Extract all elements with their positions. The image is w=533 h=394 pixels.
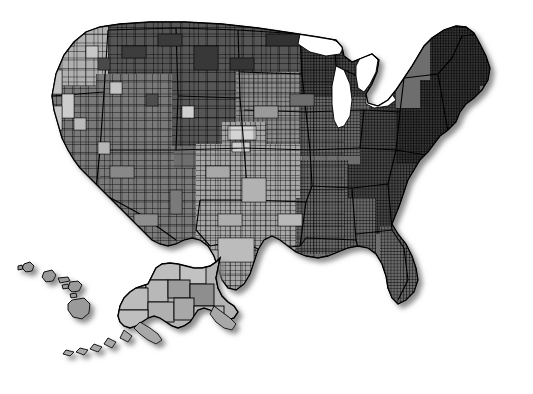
hawaii-islands xyxy=(18,262,90,319)
island-hawaii xyxy=(68,298,90,319)
island-molokai xyxy=(58,277,70,283)
region-mid-atlantic xyxy=(420,80,480,132)
island-kauai xyxy=(22,262,34,272)
cluster-lightest-plains-2 xyxy=(232,142,250,152)
island-oahu xyxy=(42,270,56,282)
lower-48-group[interactable] xyxy=(40,18,492,304)
hawaii-inset[interactable] xyxy=(18,262,90,319)
island-maui xyxy=(68,281,82,292)
region-great-basin xyxy=(96,74,174,170)
region-southwest xyxy=(100,168,200,248)
region-florida xyxy=(380,226,426,304)
us-county-map-svg[interactable] xyxy=(0,0,533,394)
island-niihau xyxy=(18,265,23,270)
county-choropleth-figure: Grayscale choropleth map of United State… xyxy=(0,0,533,394)
island-kahoolawe xyxy=(70,293,77,298)
region-mississippi-delta xyxy=(300,160,348,210)
